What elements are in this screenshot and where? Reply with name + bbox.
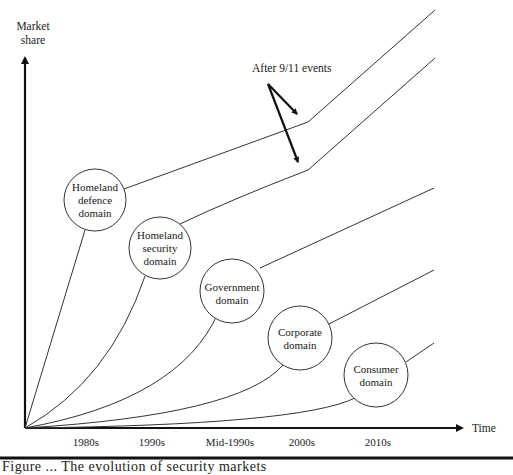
x-tick-1990s: 1990s <box>139 436 165 448</box>
svg-text:Government: Government <box>205 281 260 293</box>
callout-arrow-lower <box>268 84 298 162</box>
svg-text:Homeland: Homeland <box>72 181 118 193</box>
bubble-corporate: Corporate domain <box>268 306 332 370</box>
bubble-homeland-security: Homeland security domain <box>129 217 191 279</box>
x-axis-label: Time <box>472 422 496 434</box>
svg-text:domain: domain <box>284 339 317 351</box>
x-tick-mid-1990s: Mid-1990s <box>206 436 254 448</box>
bubble-consumer: Consumer domain <box>344 343 408 407</box>
annotation-after-911: After 9/11 events <box>252 62 332 74</box>
figure-caption: Figure ... The evolution of security mar… <box>2 459 267 475</box>
x-tick-1980s: 1980s <box>73 436 99 448</box>
bubble-government: Government domain <box>200 259 264 323</box>
svg-text:Homeland: Homeland <box>137 229 183 241</box>
svg-text:domain: domain <box>144 255 177 267</box>
svg-text:Consumer: Consumer <box>353 363 399 375</box>
svg-text:Corporate: Corporate <box>278 326 322 338</box>
bubble-homeland-defence: Homeland defence domain <box>64 169 126 231</box>
x-tick-2010s: 2010s <box>365 436 391 448</box>
y-axis-label-line2: share <box>21 34 45 46</box>
callout-arrow-upper <box>268 84 297 114</box>
svg-text:domain: domain <box>216 294 249 306</box>
x-tick-2000s: 2000s <box>289 436 315 448</box>
svg-text:defence: defence <box>78 194 112 206</box>
y-axis-label-line1: Market <box>16 20 50 32</box>
svg-text:security: security <box>143 242 178 254</box>
svg-text:domain: domain <box>360 376 393 388</box>
svg-text:domain: domain <box>79 207 112 219</box>
